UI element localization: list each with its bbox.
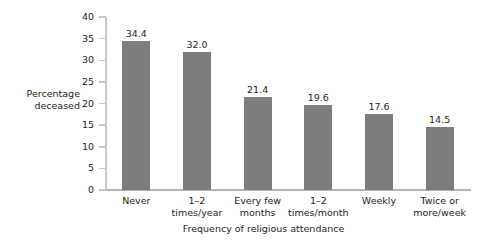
y-axis-tick-label: 35 xyxy=(72,34,94,44)
x-axis-category-label: Every few months xyxy=(224,195,292,218)
y-axis-tick-label-wrap: 20 xyxy=(72,99,94,109)
y-axis-tick xyxy=(99,81,106,83)
bar xyxy=(304,105,332,190)
y-axis-tick xyxy=(99,16,106,18)
bar-value-label: 19.6 xyxy=(294,92,342,103)
bar xyxy=(244,97,272,190)
y-axis-tick xyxy=(99,146,106,148)
bar-value-label: 32.0 xyxy=(173,39,221,50)
x-axis-category-label: Twice or more/week xyxy=(406,195,474,218)
y-axis-tick-label: 30 xyxy=(72,55,94,65)
x-axis-category-label: 1–2 times/year xyxy=(163,195,231,218)
bar-value-label: 14.5 xyxy=(416,114,464,125)
y-axis-tick-label: 15 xyxy=(72,120,94,130)
y-axis-tick xyxy=(99,189,106,191)
y-axis-tick xyxy=(99,124,106,126)
x-axis-category-label: Never xyxy=(102,195,170,207)
y-axis-tick-label: 10 xyxy=(72,142,94,152)
y-axis-tick-label-wrap: 25 xyxy=(72,77,94,87)
bars-layer: 34.432.021.419.617.614.5 xyxy=(106,17,470,190)
y-axis-tick-label-wrap: 40 xyxy=(72,12,94,22)
y-axis-tick-label-wrap: 5 xyxy=(72,163,94,173)
bar xyxy=(183,52,211,190)
bar-value-label: 34.4 xyxy=(112,28,160,39)
y-axis-tick-label-wrap: 35 xyxy=(72,34,94,44)
y-axis-tick-label: 40 xyxy=(72,12,94,22)
y-axis-tick xyxy=(99,168,106,170)
y-axis-tick-label-wrap: 0 xyxy=(72,185,94,195)
bar xyxy=(122,41,150,190)
x-axis-category-label: Weekly xyxy=(345,195,413,207)
y-axis-tick xyxy=(99,38,106,40)
y-axis-tick-label: 0 xyxy=(72,185,94,195)
y-axis-title: Percentage deceased xyxy=(8,88,80,111)
bar xyxy=(365,114,393,190)
bar-chart: Percentage deceased 0510152025303540 34.… xyxy=(0,0,479,240)
bar-value-label: 17.6 xyxy=(355,101,403,112)
y-axis-tick-label-wrap: 15 xyxy=(72,120,94,130)
x-axis-title: Frequency of religious attendance xyxy=(0,223,479,234)
y-axis-tick-label: 20 xyxy=(72,99,94,109)
y-axis-tick-label-wrap: 30 xyxy=(72,55,94,65)
y-axis-tick-label: 5 xyxy=(72,163,94,173)
y-axis-tick-label-wrap: 10 xyxy=(72,142,94,152)
bar-value-label: 21.4 xyxy=(234,84,282,95)
y-axis-tick xyxy=(99,103,106,105)
x-axis-category-label: 1–2 times/month xyxy=(284,195,352,218)
bar xyxy=(426,127,454,190)
y-axis-tick xyxy=(99,60,106,62)
y-axis-tick-label: 25 xyxy=(72,77,94,87)
